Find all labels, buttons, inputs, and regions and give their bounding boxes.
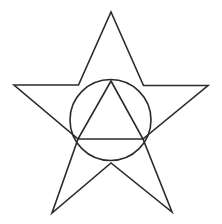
figure-canvas: [0, 0, 222, 224]
figure-svg: [0, 0, 222, 224]
canvas-background: [0, 0, 222, 224]
